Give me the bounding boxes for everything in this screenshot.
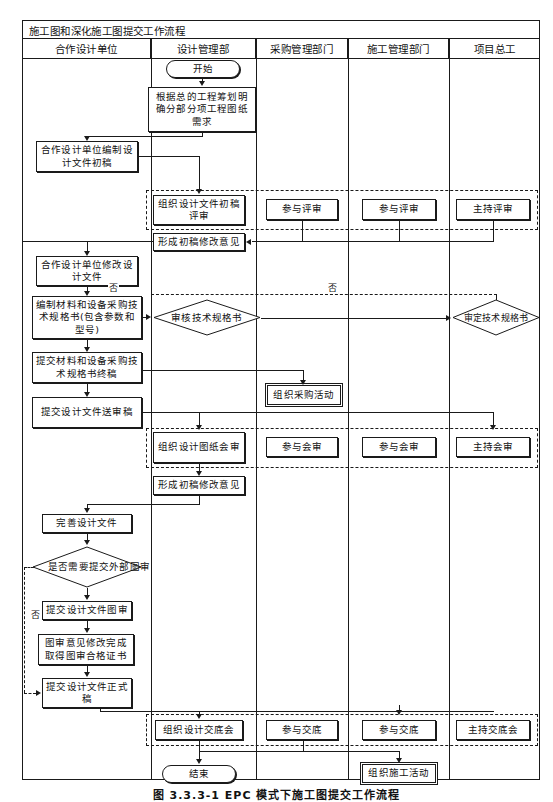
node-spec-approve[interactable]: 审定技术规格书 (452, 299, 540, 336)
arrow-external-to-cert (84, 628, 90, 633)
edge-design-review-to-host-h (142, 412, 494, 413)
arrow-plan-to-partner (84, 136, 90, 141)
node-join-handover-purchase[interactable]: 参与交底 (266, 720, 338, 740)
edge-decision-no-v (24, 567, 25, 693)
node-spec-compile[interactable]: 编制材料和设备采购技术规格书(包含参数和型号) (32, 296, 142, 339)
arrow-spec-final-to-design-review (84, 392, 90, 397)
node-join-joint-review-purchase[interactable]: 参与会审 (266, 437, 338, 457)
node-spec-approve-label: 审定技术规格书 (452, 299, 540, 336)
node-partner-draft[interactable]: 合作设计单位编制设计文件初稿 (36, 141, 138, 172)
node-host-joint-review[interactable]: 主持会审 (456, 437, 530, 457)
node-draft-revision-opinion[interactable]: 形成初稿修改意见 (153, 233, 245, 251)
node-organize-drawing-review[interactable]: 组织设计图纸会审 (153, 432, 245, 463)
arrow-check-to-approve (446, 315, 451, 321)
arrow-start-to-plan (199, 81, 205, 86)
node-spec-check[interactable]: 审核技术规格书 (153, 299, 261, 336)
edge-plan-to-partner-h (87, 136, 203, 137)
node-submit-external-review[interactable]: 提交设计文件图审 (42, 601, 132, 620)
arrow-opinion-to-partner (84, 251, 90, 256)
edge-join-review-purchase-down (302, 220, 303, 241)
node-need-external-review[interactable]: 是否需要提交外部图审 (32, 546, 142, 588)
edge-spec-final-to-purchase-h (142, 370, 304, 371)
arrow-decision-to-external (84, 595, 90, 600)
arrow-to-end (196, 759, 202, 764)
edge-join-review-construction-down (399, 220, 400, 241)
edge-label-no-1: 否 (108, 281, 119, 294)
arrow-partner-to-review (196, 189, 202, 194)
node-host-handover[interactable]: 主持交底会 (456, 720, 530, 740)
figure-caption: 图 3.3.3-1 EPC 模式下施工图提交工作流程 (0, 786, 553, 802)
node-submit-final[interactable]: 提交设计文件正式稿 (42, 678, 132, 708)
arrow-opinion2-to-improve (84, 508, 90, 513)
node-join-handover-construction[interactable]: 参与交底 (362, 720, 436, 740)
edge-host-review-left (252, 241, 493, 242)
node-partner-revise[interactable]: 合作设计单位修改设计文件 (36, 256, 138, 286)
node-join-joint-review-construction[interactable]: 参与会审 (362, 437, 436, 457)
node-need-external-review-label: 是否需要提交外部图审 (32, 546, 166, 588)
diagram-title: 施工图和深化施工图提交工作流程 (23, 23, 185, 38)
node-submit-design-review[interactable]: 提交设计文件送审稿 (32, 397, 142, 428)
arrow-to-opinion-2 (196, 471, 202, 476)
arrow-check-to-submit-spec (84, 347, 90, 352)
node-improve-design[interactable]: 完善设计文件 (42, 514, 132, 533)
edge-decision-no-in (24, 693, 36, 694)
node-start[interactable]: 开始 (166, 60, 240, 78)
edge-partner-to-review-v (199, 156, 200, 189)
column-divider-3 (348, 38, 349, 780)
arrow-to-organize-drawing-review (196, 425, 202, 430)
column-divider-1 (151, 38, 152, 780)
edge-approve-no-down (151, 294, 152, 317)
node-draft-revision-opinion-2[interactable]: 形成初稿修改意见 (153, 476, 245, 495)
node-plan-requirement[interactable]: 根据总的工程筹划明确分部分项工程图纸需求 (148, 87, 256, 132)
arrow-improve-to-decision (84, 540, 90, 545)
edge-approve-no-h (151, 294, 497, 295)
edge-final-out-v (100, 708, 101, 712)
node-host-review[interactable]: 主持评审 (456, 199, 530, 220)
node-join-review-construction[interactable]: 参与评审 (362, 199, 436, 220)
edge-opinion2-down (199, 495, 200, 505)
column-divider-2 (256, 38, 257, 780)
node-end[interactable]: 结束 (162, 765, 236, 783)
edge-opinion2-left (87, 504, 199, 505)
arrow-to-draft-opinion (246, 239, 251, 245)
arrow-to-organize-construction (396, 758, 402, 763)
arrow-to-organize-handover (196, 714, 202, 719)
flowchart-page: 施工图和深化施工图提交工作流程 合作设计单位 设计管理部 采购管理部门 施工管理… (0, 0, 553, 802)
node-join-review-purchase[interactable]: 参与评审 (266, 199, 338, 220)
diagram-title-bar: 施工图和深化施工图提交工作流程 (22, 20, 540, 39)
arrow-revise-to-spec (84, 291, 90, 296)
arrow-to-host-joint-review (490, 425, 496, 430)
edge-host-review-down (493, 220, 494, 242)
node-spec-check-label: 审核技术规格书 (153, 299, 261, 336)
arrow-to-handover-row (396, 710, 402, 715)
edge-spec-final-down (87, 383, 88, 392)
edge-final-to-handover-h (100, 711, 494, 712)
edge-label-no-2: 否 (327, 281, 338, 294)
arrow-decision-no-to-final (36, 690, 41, 696)
node-obtain-certificate[interactable]: 图审意见修改完成取得图审合格证书 (38, 634, 134, 665)
arrow-spec-to-check (146, 314, 151, 320)
edge-label-no-3: 否 (30, 608, 41, 621)
node-organize-draft-review[interactable]: 组织设计文件初稿评审 (153, 195, 245, 225)
edge-partner-to-review-h (138, 156, 199, 157)
node-organize-construction[interactable]: 组织施工活动 (362, 764, 436, 783)
node-submit-spec-final[interactable]: 提交材料和设备采购技术规格书终稿 (32, 352, 142, 383)
arrow-to-organize-purchase (300, 380, 306, 385)
node-organize-purchase[interactable]: 组织采购活动 (267, 385, 341, 405)
edge-check-to-approve (261, 318, 447, 319)
edge-handover-bottom-h (199, 751, 399, 752)
node-organize-handover[interactable]: 组织设计交底会 (155, 720, 243, 740)
column-divider-4 (449, 38, 450, 780)
edge-join-handover-down (303, 740, 304, 752)
arrow-cert-to-final (84, 672, 90, 677)
